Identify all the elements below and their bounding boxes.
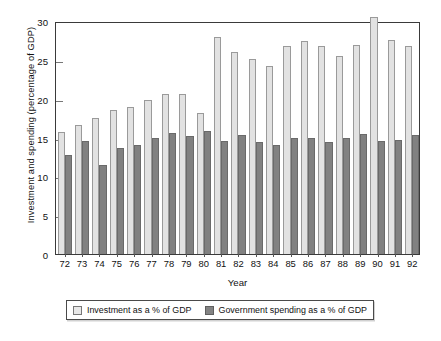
bar-investment [110, 110, 117, 254]
y-axis-tick-label: 15 [37, 135, 48, 145]
y-axis-tick-label: 10 [37, 174, 48, 184]
bar-government-spending [325, 142, 332, 254]
bar-group: 88 [334, 23, 351, 254]
bar-government-spending [221, 141, 228, 254]
bar-investment [92, 118, 99, 254]
bar-investment [231, 52, 238, 254]
legend-label: Government spending as a % of GDP [219, 305, 368, 315]
x-axis-tick [291, 254, 292, 257]
x-axis-tick [65, 254, 66, 257]
bar-group: 90 [369, 23, 386, 254]
bar-group: 89 [351, 23, 368, 254]
bar-group: 77 [143, 23, 160, 254]
bar-investment [249, 59, 256, 254]
bar-government-spending [256, 142, 263, 254]
bar-government-spending [412, 135, 419, 254]
bar-investment [283, 46, 290, 254]
bar-investment [370, 17, 377, 254]
bar-investment [405, 46, 412, 254]
bar-group: 84 [265, 23, 282, 254]
bar-government-spending [395, 140, 402, 254]
bar-chart: Investment and spending (percentage of G… [0, 0, 441, 341]
bar-government-spending [186, 136, 193, 254]
bar-group: 72 [56, 23, 73, 254]
x-axis-tick [343, 254, 344, 257]
legend-swatch-icon [73, 306, 82, 315]
bar-group: 87 [317, 23, 334, 254]
x-axis-tick [412, 254, 413, 257]
x-axis-tick [360, 254, 361, 257]
bar-government-spending [99, 165, 106, 254]
bar-group: 79 [178, 23, 195, 254]
bar-government-spending [360, 134, 367, 254]
bar-group: 75 [108, 23, 125, 254]
bar-investment [127, 107, 134, 254]
bar-government-spending [134, 145, 141, 255]
bar-government-spending [152, 138, 159, 254]
bar-investment [353, 45, 360, 254]
bar-group: 80 [195, 23, 212, 254]
bar-investment [197, 113, 204, 254]
bar-investment [58, 132, 65, 254]
bar-group: 82 [230, 23, 247, 254]
x-axis-tick [238, 254, 239, 257]
bar-investment [144, 100, 151, 254]
x-axis-tick [308, 254, 309, 257]
bar-group: 74 [91, 23, 108, 254]
x-axis-tick [204, 254, 205, 257]
x-axis-tick-label: 92 [401, 258, 423, 269]
bar-investment [179, 94, 186, 254]
x-axis-tick [152, 254, 153, 257]
x-axis-tick [186, 254, 187, 257]
bar-investment [336, 56, 343, 254]
bar-government-spending [308, 138, 315, 255]
x-axis-tick [395, 254, 396, 257]
bar-group: 86 [299, 23, 316, 254]
x-axis-title: Year [55, 277, 420, 288]
bar-investment [266, 66, 273, 254]
y-axis-tick-label: 5 [43, 212, 48, 222]
bar-investment [318, 46, 325, 254]
bar-investment [388, 40, 395, 254]
x-axis-tick [99, 254, 100, 257]
bar-group: 81 [212, 23, 229, 254]
bar-government-spending [82, 141, 89, 254]
legend-swatch-icon [205, 306, 214, 315]
bar-government-spending [378, 141, 385, 254]
bar-group: 91 [386, 23, 403, 254]
bar-government-spending [238, 135, 245, 254]
x-axis-tick [221, 254, 222, 257]
bar-government-spending [273, 145, 280, 255]
bar-investment [162, 94, 169, 254]
legend-item-government-spending: Government spending as a % of GDP [205, 305, 368, 315]
bar-government-spending [169, 133, 176, 254]
chart-legend: Investment as a % of GDP Government spen… [66, 300, 374, 320]
x-axis-tick [169, 254, 170, 257]
bar-government-spending [65, 155, 72, 254]
bar-government-spending [291, 138, 298, 255]
bar-group: 85 [282, 23, 299, 254]
bar-government-spending [343, 138, 350, 255]
y-axis-title: Investment and spending (percentage of G… [26, 10, 36, 240]
bar-government-spending [204, 131, 211, 254]
bar-group: 76 [126, 23, 143, 254]
y-axis-tick-label: 0 [43, 251, 48, 261]
x-axis-tick [325, 254, 326, 257]
bar-group: 92 [404, 23, 421, 254]
x-axis-tick [117, 254, 118, 257]
legend-item-investment: Investment as a % of GDP [73, 305, 192, 315]
y-axis-tick-label: 25 [37, 57, 48, 67]
bar-investment [75, 125, 82, 254]
plot-area: 0510152025307273747576777879808182838485… [55, 22, 420, 255]
x-axis-tick [82, 254, 83, 257]
legend-label: Investment as a % of GDP [87, 305, 192, 315]
plot-inner: 0510152025307273747576777879808182838485… [56, 23, 419, 254]
x-axis-tick [273, 254, 274, 257]
bar-investment [214, 37, 221, 254]
y-axis-tick-label: 30 [37, 18, 48, 28]
bar-government-spending [117, 148, 124, 254]
bar-group: 78 [160, 23, 177, 254]
y-axis-tick-label: 20 [37, 96, 48, 106]
x-axis-tick [256, 254, 257, 257]
bar-group: 83 [247, 23, 264, 254]
